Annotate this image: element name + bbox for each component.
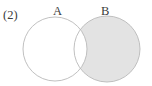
venn-diagram-figure: (2) A B	[0, 0, 152, 86]
set-a-label: A	[53, 5, 62, 18]
venn-diagram-canvas	[0, 0, 152, 86]
item-number-label: (2)	[3, 9, 18, 22]
set-b-label: B	[101, 5, 109, 18]
